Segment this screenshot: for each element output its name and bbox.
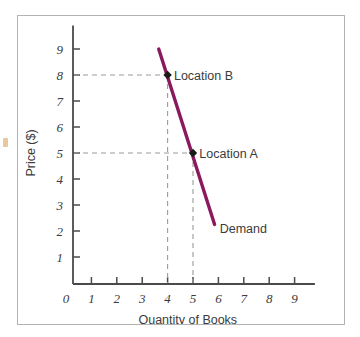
y-tick-label-5: 5 <box>57 146 64 161</box>
x-tick-label-6: 6 <box>215 291 222 306</box>
x-tick-label-7: 7 <box>241 291 248 306</box>
y-tick-label-8: 8 <box>57 68 64 83</box>
x-tick-label-3: 3 <box>138 291 146 306</box>
y-tick-label-1: 1 <box>57 250 64 265</box>
x-tick-label-0: 0 <box>63 291 70 306</box>
y-tick-label-6: 6 <box>57 120 64 135</box>
y-tick-label-9: 9 <box>57 42 64 57</box>
x-tick-label-9: 9 <box>291 291 298 306</box>
y-tick-label-2: 2 <box>57 224 64 239</box>
y-tick-label-4: 4 <box>57 172 64 187</box>
x-tick-label-8: 8 <box>266 291 273 306</box>
x-axis-title: Quantity of Books <box>138 313 237 324</box>
x-tick-label-5: 5 <box>190 291 197 306</box>
x-tick-label-1: 1 <box>88 291 95 306</box>
y-tick-label-3: 3 <box>56 198 64 213</box>
demand-curve-chart: 1234567890123456789Location BLocation AD… <box>18 16 344 324</box>
annotation-demand: Demand <box>220 222 267 236</box>
annotation-location-a: Location A <box>199 147 258 161</box>
annotation-location-b: Location B <box>174 69 233 83</box>
y-axis-title: Price ($) <box>24 129 38 176</box>
scan-artifact-left-edge <box>3 138 8 147</box>
figure-frame: 1234567890123456789Location BLocation AD… <box>17 15 345 325</box>
x-tick-label-2: 2 <box>114 291 121 306</box>
x-tick-label-4: 4 <box>164 291 171 306</box>
y-tick-label-7: 7 <box>57 94 64 109</box>
